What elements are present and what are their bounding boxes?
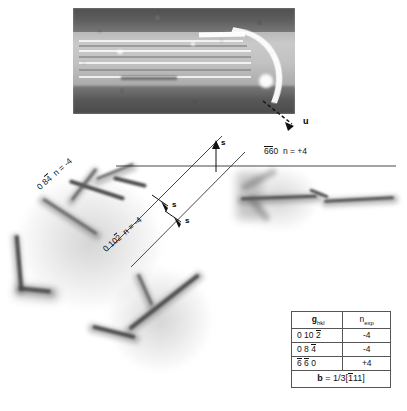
table-header-n: nexp — [343, 312, 390, 329]
deviation-value: n = -4 — [51, 156, 74, 178]
figure-root: u 0 84 n = -4 0 102 n = -4 660 n = +4 s … — [0, 0, 407, 411]
diffraction-vector-table: ghkl nexp 0 10 2 -4 0 8 4 -4 6 6 0 +4 b … — [291, 311, 391, 388]
table-cell-g: 6 6 0 — [292, 357, 343, 370]
table-cell-g: 0 8 4 — [292, 343, 343, 357]
diffraction-label-660: 660 n = +4 — [264, 146, 307, 156]
s-marker-up — [212, 140, 220, 172]
diffuse-halo — [236, 172, 262, 220]
table-header-g: ghkl — [292, 312, 343, 329]
table-cell-n: -4 — [343, 343, 390, 357]
tem-micrograph-fringes — [73, 8, 295, 114]
s-label-down-2: s — [185, 216, 189, 225]
table-cell-g: 0 10 2 — [292, 329, 343, 343]
table-row: 6 6 0 +4 — [292, 357, 390, 370]
s-label-down-1: s — [172, 200, 176, 209]
s-label-up: s — [221, 138, 225, 147]
u-direction-label: u — [303, 116, 309, 126]
s-marker-down-1 — [152, 195, 168, 212]
g-index-l: 0 — [273, 146, 278, 156]
burgers-vector-value: 1/3[111] — [333, 373, 365, 383]
deviation-value: n = +4 — [283, 146, 307, 156]
s-marker-down-2 — [165, 211, 181, 228]
diffuse-halo — [110, 270, 210, 370]
table-cell-n: -4 — [343, 329, 390, 343]
micrograph-grain-texture — [73, 8, 295, 114]
table-footer-burgers-vector: b = 1/3[111] — [292, 370, 390, 387]
dislocation-segment-halo — [322, 195, 398, 207]
micrograph-background — [73, 8, 295, 114]
table-header-row: ghkl nexp — [292, 312, 390, 329]
table-row: 0 8 4 -4 — [292, 343, 390, 357]
table-row: 0 10 2 -4 — [292, 329, 390, 343]
table-cell-n: +4 — [343, 357, 390, 370]
